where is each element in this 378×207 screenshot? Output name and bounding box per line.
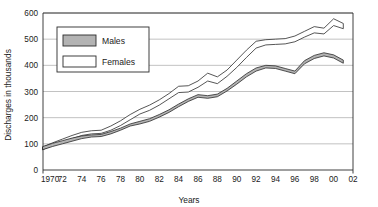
- chart-legend: MalesFemales: [57, 27, 149, 72]
- x-tick-label-02: 02: [348, 175, 358, 184]
- legend-swatch-males: [63, 35, 96, 46]
- x-tick-label-72: 72: [58, 175, 68, 184]
- legend-swatch-females: [63, 56, 96, 67]
- x-tick-label-92: 92: [252, 175, 262, 184]
- y-tick-label-400: 400: [24, 61, 38, 70]
- x-tick-label-86: 86: [193, 175, 203, 184]
- x-axis-title: Years: [178, 195, 199, 205]
- legend-label-females: Females: [102, 57, 135, 67]
- x-tick-label-74: 74: [77, 175, 87, 184]
- x-tick-label-98: 98: [310, 175, 320, 184]
- x-tick-label-94: 94: [271, 175, 281, 184]
- chart-container: 0100200300400500600 19707274767880828486…: [0, 0, 378, 207]
- y-axis-title: Discharges in thousands: [3, 49, 13, 141]
- x-tick-label-96: 96: [290, 175, 300, 184]
- x-tick-label-76: 76: [97, 175, 107, 184]
- discharges-line-chart: 0100200300400500600 19707274767880828486…: [0, 0, 378, 207]
- y-tick-label-0: 0: [33, 166, 38, 175]
- y-tick-label-200: 200: [24, 114, 38, 123]
- y-tick-label-300: 300: [24, 88, 38, 97]
- x-tick-label-82: 82: [155, 175, 165, 184]
- x-tick-label-80: 80: [135, 175, 145, 184]
- x-tick-label-90: 90: [232, 175, 242, 184]
- y-tick-label-500: 500: [24, 35, 38, 44]
- y-tick-label-600: 600: [24, 9, 38, 18]
- x-tick-label-88: 88: [213, 175, 223, 184]
- x-tick-label-00: 00: [329, 175, 339, 184]
- legend-label-males: Males: [102, 36, 125, 46]
- y-tick-label-100: 100: [24, 140, 38, 149]
- x-tick-label-78: 78: [116, 175, 126, 184]
- x-tick-label-84: 84: [174, 175, 184, 184]
